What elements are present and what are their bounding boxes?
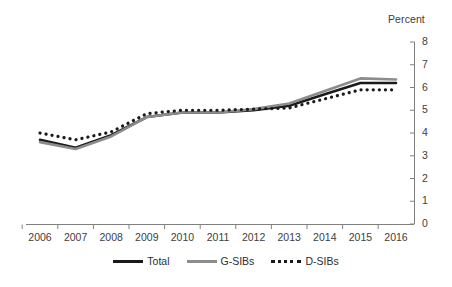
y-axis-tick-label: 8	[422, 35, 442, 47]
y-axis-tick-label: 7	[422, 58, 442, 70]
y-axis-tick-label: 1	[422, 194, 442, 206]
solid-line-icon	[187, 256, 217, 267]
chart-legend: TotalG-SIBsD-SIBs	[0, 255, 452, 267]
series-line-d-sibs	[40, 90, 396, 140]
legend-item-label: D-SIBs	[305, 255, 338, 267]
x-axis-tick-label: 2016	[374, 231, 418, 243]
data-series-group	[40, 78, 396, 149]
dotted-line-icon	[271, 256, 301, 267]
y-axis-tick-marks	[410, 42, 415, 224]
y-axis-tick-label: 0	[422, 217, 442, 229]
solid-line-icon	[113, 256, 143, 267]
y-axis-tick-label: 2	[422, 172, 442, 184]
y-axis-tick-label: 6	[422, 81, 442, 93]
legend-item-g-sibs[interactable]: G-SIBs	[187, 255, 255, 267]
y-axis-tick-label: 5	[422, 103, 442, 115]
chart-container: Percent 012345678 2006200720082009201020…	[0, 0, 452, 287]
plot-area	[0, 0, 452, 287]
series-line-total	[40, 83, 396, 148]
legend-item-d-sibs[interactable]: D-SIBs	[271, 255, 338, 267]
x-axis-tick-marks	[22, 225, 378, 230]
y-axis-tick-label: 3	[422, 149, 442, 161]
y-axis-tick-label: 4	[422, 126, 442, 138]
legend-item-label: Total	[147, 255, 169, 267]
legend-item-label: G-SIBs	[221, 255, 255, 267]
legend-item-total[interactable]: Total	[113, 255, 169, 267]
